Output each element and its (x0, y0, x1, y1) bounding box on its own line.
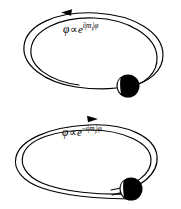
wavefunction-formula-bottom: φ∝e−i|ml|φ (62, 127, 101, 139)
formula-exponent-phi-top: φ (94, 21, 98, 30)
formula-exponent-bottom: −i|ml|φ (82, 124, 102, 133)
panel-positive-m: φ∝ei|ml|φ (0, 0, 181, 105)
direction-arrow-bottom (87, 116, 98, 122)
formula-proportional-symbol-top: ∝ (69, 24, 78, 35)
orbit-diagram-bottom (0, 104, 181, 209)
orbital-wavefunction-figure: φ∝ei|ml|φ φ∝e−i|ml|φ (0, 0, 181, 209)
formula-exponent-phi-bottom: φ (97, 124, 101, 133)
orbit-diagram-top (0, 0, 181, 105)
formula-exponent-top: i|ml|φ (83, 21, 99, 30)
panel-negative-m: φ∝e−i|ml|φ (0, 104, 181, 209)
formula-proportional-symbol-bottom: ∝ (68, 127, 77, 138)
wavefunction-formula-top: φ∝ei|ml|φ (63, 24, 98, 36)
